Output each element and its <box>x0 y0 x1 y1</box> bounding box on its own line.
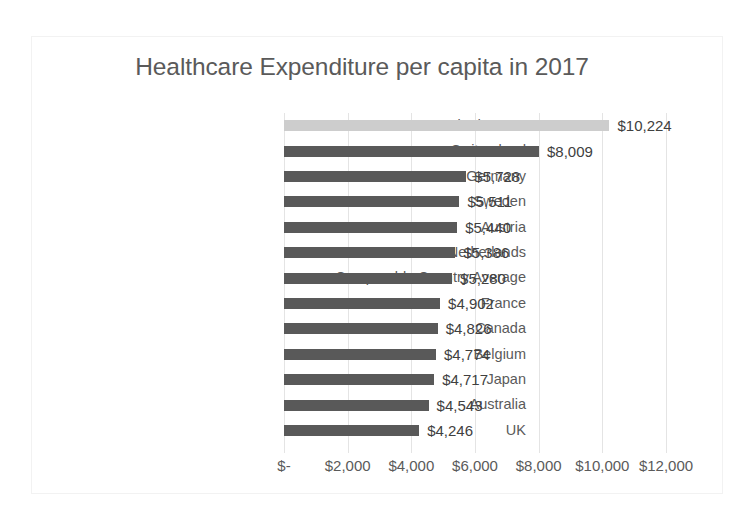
bar[interactable] <box>284 196 459 207</box>
bar-value-label: $4,246 <box>427 422 473 439</box>
bar[interactable] <box>284 298 440 309</box>
bar-row[interactable]: $4,543 <box>284 392 750 417</box>
bar-row[interactable]: $4,246 <box>284 418 750 443</box>
bar-value-label: $4,717 <box>442 371 488 388</box>
bar-value-label: $5,280 <box>460 270 506 287</box>
bar-value-label: $5,728 <box>474 168 520 185</box>
bar-row[interactable]: $8,009 <box>284 138 750 163</box>
bar[interactable] <box>284 425 419 436</box>
bar-value-label: $5,386 <box>463 244 509 261</box>
bar-row[interactable]: $5,511 <box>284 189 750 214</box>
bar[interactable] <box>284 146 539 157</box>
value-axis-tick-label: $6,000 <box>452 457 498 474</box>
value-axis-tick-label: $2,000 <box>325 457 371 474</box>
bar[interactable] <box>284 247 455 258</box>
bar[interactable] <box>284 323 438 334</box>
bar[interactable] <box>284 120 609 131</box>
bar-value-label: $5,511 <box>467 193 512 210</box>
bar-value-label: $4,902 <box>448 295 494 312</box>
value-axis-tick-label: $- <box>277 457 290 474</box>
bar-row[interactable]: $4,902 <box>284 291 750 316</box>
bar[interactable] <box>284 273 452 284</box>
bar[interactable] <box>284 222 457 233</box>
bar-row[interactable]: $5,728 <box>284 164 750 189</box>
chart-title: Healthcare Expenditure per capita in 201… <box>32 53 692 81</box>
bar-value-label: $5,440 <box>465 219 511 236</box>
value-axis-tick-label: $8,000 <box>516 457 562 474</box>
value-axis-tick-label: $4,000 <box>388 457 434 474</box>
bar-value-label: $8,009 <box>547 143 593 160</box>
bar-row[interactable]: $5,280 <box>284 265 750 290</box>
bar-row[interactable]: $5,440 <box>284 215 750 240</box>
bar-row[interactable]: $4,774 <box>284 342 750 367</box>
bar-value-label: $4,543 <box>437 397 483 414</box>
bar-row[interactable]: $10,224 <box>284 113 750 138</box>
value-axis-labels: $-$2,000$4,000$6,000$8,000$10,000$12,000 <box>284 457 666 485</box>
bar-value-label: $10,224 <box>617 117 671 134</box>
bar[interactable] <box>284 171 466 182</box>
bar-value-label: $4,826 <box>446 320 492 337</box>
bar[interactable] <box>284 400 429 411</box>
bar-series: $10,224$8,009$5,728$5,511$5,440$5,386$5,… <box>284 113 666 453</box>
bar-row[interactable]: $4,826 <box>284 316 750 341</box>
value-axis-tick-label: $12,000 <box>639 457 693 474</box>
value-axis-tick-label: $10,000 <box>575 457 629 474</box>
bar[interactable] <box>284 349 436 360</box>
bar[interactable] <box>284 374 434 385</box>
bar-row[interactable]: $4,717 <box>284 367 750 392</box>
bar-row[interactable]: $5,386 <box>284 240 750 265</box>
chart-container: Healthcare Expenditure per capita in 201… <box>31 36 723 494</box>
bar-value-label: $4,774 <box>444 346 490 363</box>
plot-area: United StatesSwitzerlandGermanySwedenAus… <box>284 113 666 453</box>
